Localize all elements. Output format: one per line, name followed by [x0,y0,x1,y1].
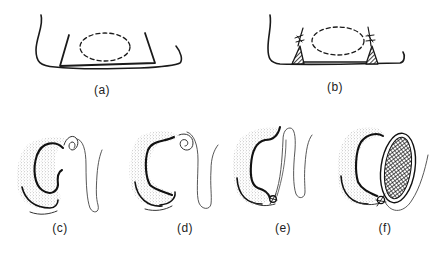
panel-a-drawing [36,15,181,69]
panel-e-drawing [233,127,312,206]
panel-c-label: (c) [52,221,68,235]
panel-f-drawing [338,127,428,210]
panel-c-drawing [17,136,102,214]
panel-f-label: (f) [379,221,392,235]
panel-e-label: (e) [275,221,291,235]
panel-b-drawing [268,15,404,64]
panel-b-label: (b) [327,80,343,94]
panel-d-label: (d) [177,221,193,235]
panel-d-drawing [130,131,218,210]
panel-a-label: (a) [94,83,110,97]
figure-drawing [0,0,440,256]
